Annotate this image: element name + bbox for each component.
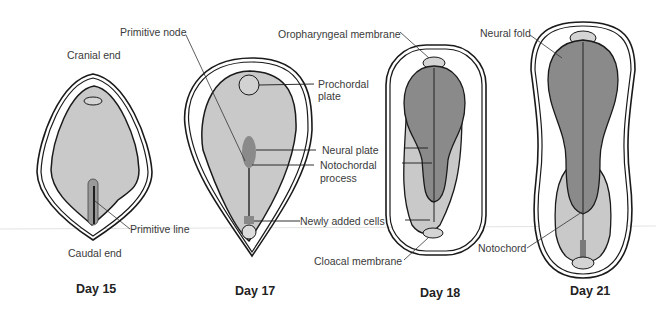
label-primitive-node: Primitive node: [120, 26, 187, 38]
label-day-18: Day 18: [420, 286, 460, 300]
day15-embryo: [37, 74, 152, 240]
label-day-15: Day 15: [76, 282, 116, 296]
day18-embryo: [386, 32, 486, 260]
label-notochordal-1: Notochordal: [320, 159, 377, 171]
label-notochord: Notochord: [478, 242, 526, 254]
label-prochordal-1: Prochordal: [318, 78, 369, 90]
label-notochordal-2: process: [320, 172, 357, 184]
label-day-21: Day 21: [570, 284, 610, 298]
label-cloacal-membrane: Cloacal membrane: [314, 255, 402, 267]
label-primitive-line: Primitive line: [130, 223, 190, 235]
label-newly-added-cells: Newly added cells: [300, 215, 385, 227]
label-caudal-end: Caudal end: [68, 247, 122, 259]
label-oropharyngeal-membrane: Oropharyngeal membrane: [278, 28, 401, 40]
label-neural-fold: Neural fold: [480, 27, 531, 39]
label-cranial-end: Cranial end: [67, 49, 121, 61]
label-day-17: Day 17: [235, 284, 275, 298]
label-prochordal-2: plate: [318, 90, 341, 102]
day21-embryo: [527, 22, 635, 278]
day17-embryo: [185, 35, 316, 256]
label-neural-plate: Neural plate: [322, 144, 379, 156]
